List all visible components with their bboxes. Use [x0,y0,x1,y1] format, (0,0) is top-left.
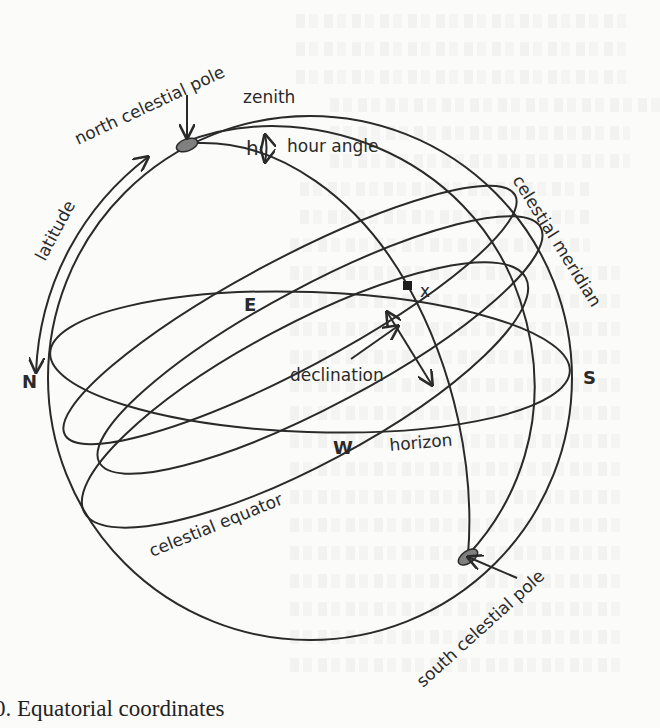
horizon-label: horizon [389,430,454,455]
star-label: x [420,281,430,301]
hour-angle-symbol: h [246,136,259,160]
latitude-arrow [36,157,148,372]
declination-label: declination [290,365,384,385]
figure-caption: 0. Equatorial coordinates [0,696,225,722]
hour-circle-line [197,143,469,555]
west-label: W [333,437,353,458]
north-celestial-pole-marker [175,136,200,155]
hour-angle-arrow [265,135,267,162]
hour-angle-label: hour angle [287,136,379,156]
celestial-equator-label: celestial equator [146,489,285,561]
celestial-equator-circle [51,216,558,574]
declination-arc-arrow [387,312,432,385]
north-label: N [22,371,37,392]
scp-pointer-arrow [468,557,517,578]
star-point [403,281,412,290]
latitude-label: latitude [31,197,79,264]
south-label: S [583,367,596,388]
south-celestial-pole-label: south celestial pole [412,566,548,691]
declination-circle-upper [39,147,541,484]
zenith-label: zenith [243,87,295,107]
east-label: E [244,294,256,315]
